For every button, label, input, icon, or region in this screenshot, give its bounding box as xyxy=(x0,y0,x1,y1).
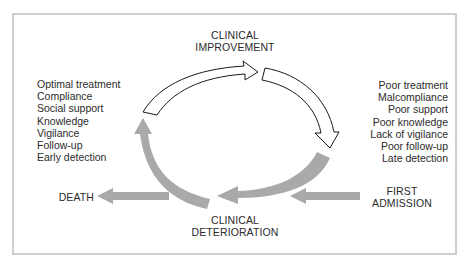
factor-item: Social support xyxy=(37,102,120,114)
positive-factors-list: Optimal treatment Compliance Social supp… xyxy=(37,78,120,163)
worsening-arrow-right xyxy=(262,68,339,148)
factor-item: Poor knowledge xyxy=(358,116,448,128)
label-line: IMPROVEMENT xyxy=(190,41,280,53)
label-line: CLINICAL xyxy=(190,29,280,41)
negative-factors-list: Poor treatment Malcompliance Poor suppor… xyxy=(358,79,448,164)
factor-item: Late detection xyxy=(358,152,448,164)
factor-item: Poor follow-up xyxy=(358,140,448,152)
factor-item: Follow-up xyxy=(37,139,120,151)
factor-item: Poor treatment xyxy=(358,79,448,91)
improvement-arrow-left xyxy=(143,61,258,115)
factor-item: Early detection xyxy=(37,151,120,163)
factor-item: Malcompliance xyxy=(358,91,448,103)
factor-item: Vigilance xyxy=(37,127,120,139)
label-line: DEATH xyxy=(50,191,94,203)
factor-item: Lack of vigilance xyxy=(358,128,448,140)
death-arrow xyxy=(97,188,169,204)
factor-item: Knowledge xyxy=(37,115,120,127)
label-line: DETERIORATION xyxy=(185,226,285,238)
factor-item: Poor support xyxy=(358,103,448,115)
first-admission-label: FIRST ADMISSION xyxy=(362,185,442,209)
factor-item: Compliance xyxy=(37,90,120,102)
clinical-improvement-label: CLINICAL IMPROVEMENT xyxy=(190,29,280,53)
factor-item: Optimal treatment xyxy=(37,78,120,90)
label-line: ADMISSION xyxy=(362,197,442,209)
clinical-deterioration-label: CLINICAL DETERIORATION xyxy=(185,214,285,238)
label-line: CLINICAL xyxy=(185,214,285,226)
label-line: FIRST xyxy=(362,185,442,197)
death-label: DEATH xyxy=(50,191,94,203)
first-admission-arrow xyxy=(290,188,360,204)
